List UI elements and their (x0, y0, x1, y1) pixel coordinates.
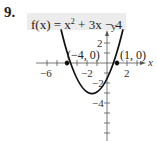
y-axis-label: y (111, 20, 117, 32)
graph: x y −6 −2 2 2 −2 −4 (−4, 0) (1, 0) (0, 0, 157, 141)
tick-label-x-neg6: −6 (40, 67, 52, 79)
y-axis-arrow-icon (105, 30, 109, 36)
point-label-1-0: (1, 0) (120, 48, 146, 62)
point-1-0 (115, 61, 120, 66)
tick-label-y-neg4: −4 (92, 97, 104, 109)
point-label-neg4-0: (−4, 0) (67, 48, 100, 62)
tick-label-x-neg2: −2 (81, 67, 93, 79)
x-axis-label: x (147, 56, 153, 68)
tick-label-x-2: 2 (124, 67, 130, 79)
